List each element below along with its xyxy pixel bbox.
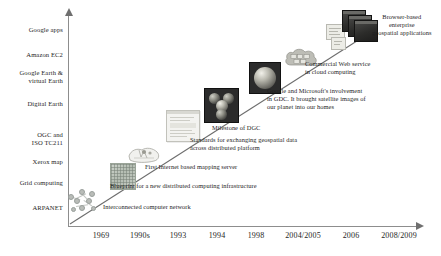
annotation-standards-geospatial: Standards for exchanging geospatial data… <box>190 136 297 152</box>
y-label-arpanet: ARPANET <box>0 204 63 212</box>
x-label-1990s: 1990s <box>130 231 150 240</box>
annotation-interconnected-network: Interconnected computer network <box>103 203 191 211</box>
annotation-google-microsoft: Google and Microsoft's involvement in GD… <box>267 87 366 110</box>
x-label-1994: 1994 <box>209 231 226 240</box>
y-axis-arrow-icon <box>65 8 73 16</box>
xerox-map-thumbnail <box>126 145 162 165</box>
y-label-ogc-iso-tc211: OGC and ISO TC211 <box>0 131 63 147</box>
x-label-2004-2005: 2004/2005 <box>285 231 321 240</box>
annotation-blueprint-distributed: Blueprint for a new distributed computin… <box>110 182 257 190</box>
x-axis-arrow-icon <box>416 222 424 230</box>
x-label-1969: 1969 <box>93 231 110 240</box>
annotation-commercial-web-service: Commercial Web service in cloud computin… <box>305 60 370 76</box>
y-label-xerox-map: Xerox map <box>0 158 63 166</box>
arpanet-node-graph <box>64 186 106 216</box>
y-label-digital-earth: Digital Earth <box>0 100 63 108</box>
annotation-first-mapping-server: First Internet based mapping server <box>145 163 237 171</box>
timeline-figure: Google apps Amazon EC2 Google Earth & vi… <box>0 0 441 256</box>
y-label-google-apps: Google apps <box>0 26 63 34</box>
x-label-1998: 1998 <box>248 231 265 240</box>
browser-stack <box>326 8 378 52</box>
y-label-amazon-ec2: Amazon EC2 <box>0 51 63 59</box>
annotation-milestone-dgc: Milestone of DGC <box>212 124 260 132</box>
y-label-grid-computing: Grid computing <box>0 179 63 187</box>
x-label-2006: 2006 <box>343 231 360 240</box>
mini-window <box>331 37 346 50</box>
x-label-2008-2009: 2008/2009 <box>381 231 417 240</box>
annotation-browser-based: Browser-based enterprise geospatial appl… <box>372 13 432 36</box>
digital-earth-globes <box>204 88 239 123</box>
x-axis-line <box>68 226 420 227</box>
x-label-1993: 1993 <box>170 231 187 240</box>
y-label-google-earth-virtual-earth: Google Earth & virtual Earth <box>0 69 63 85</box>
